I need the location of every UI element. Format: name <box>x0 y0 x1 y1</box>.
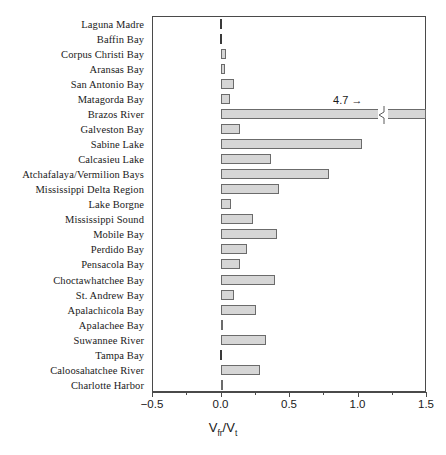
bar <box>221 49 226 59</box>
category-label: Galveston Bay <box>81 124 144 135</box>
category-label: Corpus Christi Bay <box>61 48 144 59</box>
callout-value: 4.7 <box>333 94 348 106</box>
bar <box>220 19 222 29</box>
category-label: Lake Borgne <box>89 199 144 210</box>
bar-chart: Laguna MadreBaffin BayCorpus Christi Bay… <box>0 0 446 455</box>
bar-row: Suwannee River <box>0 332 446 348</box>
value-callout: 4.7 → <box>333 94 361 106</box>
bar <box>221 79 235 89</box>
bar-row: Tampa Bay <box>0 347 446 363</box>
x-tick <box>152 392 153 397</box>
category-label: Apalachicola Bay <box>67 304 144 315</box>
bar <box>221 335 266 345</box>
x-minor-tick <box>186 392 187 395</box>
x-axis-label: Vfr/Vt <box>0 420 446 438</box>
bar <box>221 244 247 254</box>
bar <box>221 109 427 119</box>
bar <box>221 229 277 239</box>
x-tick <box>221 392 222 397</box>
category-label: Caloosahatchee River <box>50 364 144 375</box>
category-label: Apalachee Bay <box>79 319 144 330</box>
bar <box>221 259 240 269</box>
category-label: Choctawhatchee Bay <box>53 274 144 285</box>
x-tick-label: 0.0 <box>213 398 229 410</box>
bar-row: Aransas Bay <box>0 61 446 77</box>
bar <box>221 139 362 149</box>
bar-row: Apalachee Bay <box>0 317 446 333</box>
bar-row: Atchafalaya/Vermilion Bays <box>0 166 446 182</box>
bar <box>221 290 235 300</box>
bar <box>221 214 254 224</box>
category-label: Pensacola Bay <box>81 259 144 270</box>
bar-row: Calcasieu Lake <box>0 151 446 167</box>
category-label: Mississippi Delta Region <box>35 184 144 195</box>
bar <box>220 34 222 44</box>
bar-row: Apalachicola Bay <box>0 302 446 318</box>
bar-row: San Antonio Bay <box>0 76 446 92</box>
x-tick-label: 1.0 <box>350 398 366 410</box>
x-minor-tick <box>392 392 393 395</box>
category-label: Suwannee River <box>73 334 144 345</box>
x-tick-label: −0.5 <box>141 398 164 410</box>
category-label: Atchafalaya/Vermilion Bays <box>22 169 144 180</box>
bar <box>221 365 261 375</box>
category-label: Sabine Lake <box>91 139 144 150</box>
bar-row: Corpus Christi Bay <box>0 46 446 62</box>
bar-row: Laguna Madre <box>0 16 446 32</box>
bar-row: Choctawhatchee Bay <box>0 272 446 288</box>
category-label: Laguna Madre <box>81 18 144 29</box>
x-tick-label: 1.5 <box>418 398 434 410</box>
category-label: San Antonio Bay <box>71 78 144 89</box>
x-tick-label: 0.5 <box>281 398 297 410</box>
bar-row: Pensacola Bay <box>0 257 446 273</box>
category-label: Perdido Bay <box>91 244 144 255</box>
category-label: Charlotte Harbor <box>71 379 144 390</box>
category-label: Baffin Bay <box>97 33 144 44</box>
category-label: Aransas Bay <box>90 63 144 74</box>
bar-row: Mississippi Sound <box>0 212 446 228</box>
bar <box>221 184 280 194</box>
bar-row: Lake Borgne <box>0 196 446 212</box>
bar-row: Sabine Lake <box>0 136 446 152</box>
arrow-right-icon: → <box>351 94 361 106</box>
bar-row: St. Andrew Bay <box>0 287 446 303</box>
x-tick <box>289 392 290 397</box>
bar <box>220 350 222 360</box>
bar <box>221 169 329 179</box>
bar <box>221 124 240 134</box>
break-slash-icon <box>377 106 387 122</box>
bar <box>221 380 224 390</box>
bar-row: Caloosahatchee River <box>0 362 446 378</box>
bar-row: Perdido Bay <box>0 242 446 258</box>
bar <box>221 275 276 285</box>
category-label: Brazos River <box>88 109 144 120</box>
bar-row: Matagorda Bay <box>0 91 446 107</box>
bar <box>221 320 224 330</box>
x-minor-tick <box>255 392 256 395</box>
category-label: Calcasieu Lake <box>78 154 144 165</box>
category-label: Tampa Bay <box>95 349 144 360</box>
bar-row: Mississippi Delta Region <box>0 181 446 197</box>
category-label: Matagorda Bay <box>78 94 144 105</box>
x-minor-tick <box>323 392 324 395</box>
category-label: Mississippi Sound <box>65 214 144 225</box>
bar-row: Mobile Bay <box>0 227 446 243</box>
x-tick <box>358 392 359 397</box>
bar <box>221 64 225 74</box>
x-axis-label-sub2: t <box>235 428 237 438</box>
bar-row: Baffin Bay <box>0 31 446 47</box>
bar-row: Charlotte Harbor <box>0 377 446 393</box>
category-label: Mobile Bay <box>93 229 144 240</box>
x-axis-label-v2: V <box>226 420 235 435</box>
category-label: St. Andrew Bay <box>76 289 144 300</box>
bar <box>221 94 231 104</box>
bar <box>221 154 272 164</box>
bar <box>221 199 232 209</box>
x-tick <box>426 392 427 397</box>
bar <box>221 305 257 315</box>
